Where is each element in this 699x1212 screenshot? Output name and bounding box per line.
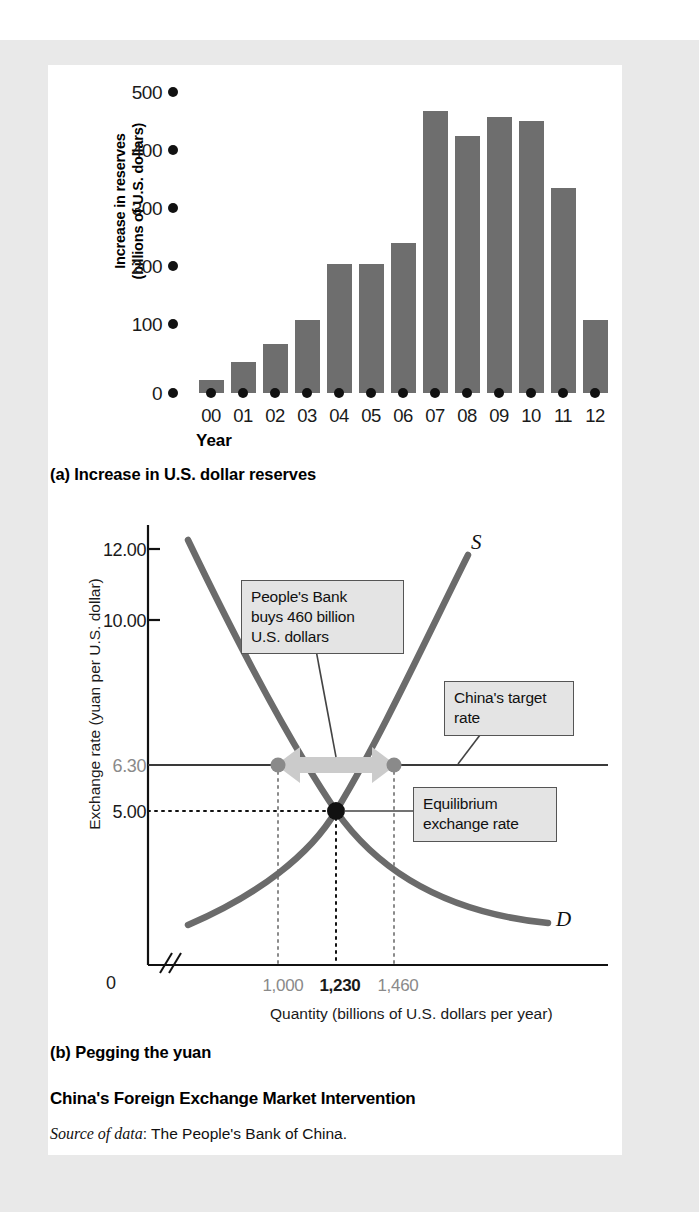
panel-a-ytick-dot-500 (168, 87, 178, 97)
page-margin-bottom (0, 1155, 699, 1212)
callout-target-rate-line1: China's target (454, 689, 546, 706)
demand-curve-label: D (556, 907, 571, 932)
bar-09 (487, 117, 512, 393)
panel-b-plot-svg (48, 495, 622, 995)
quantity-supplied-point (387, 758, 402, 773)
panel-a-xtick-01: 01 (226, 405, 260, 427)
chart-panel-b: Exchange rate (yuan per U.S. dollar) 12.… (48, 495, 622, 1075)
panel-a-xtick-00: 00 (194, 405, 228, 427)
callout-equilibrium-line2: exchange rate (423, 815, 519, 832)
callout-intervention: People's Bank buys 460 billion U.S. doll… (241, 580, 404, 654)
panel-a-plot-area (196, 87, 616, 393)
supply-curve-label: S (471, 530, 482, 555)
panel-a-ytick-dot-100 (168, 319, 178, 329)
callout-target-rate: China's target rate (444, 681, 574, 736)
bar-11 (551, 188, 576, 393)
panel-a-xtick-dot-10 (526, 388, 536, 398)
bar-05 (359, 264, 384, 393)
panel-a-xtick-dot-04 (334, 388, 344, 398)
panel-a-xtick-dot-09 (494, 388, 504, 398)
panel-a-xtick-dot-00 (206, 388, 216, 398)
callout-target-rate-line2: rate (454, 709, 480, 726)
figure-source-text: : The People's Bank of China. (143, 1125, 347, 1142)
bar-12 (583, 320, 608, 393)
callout-intervention-line2: buys 460 billion (251, 608, 355, 625)
panel-a-xtick-dot-12 (590, 388, 600, 398)
bar-07 (423, 111, 448, 393)
bar-04 (327, 264, 352, 393)
equilibrium-point (327, 802, 345, 820)
callout-intervention-line1: People's Bank (251, 588, 347, 605)
quantity-demanded-point (271, 758, 286, 773)
panel-a-xtick-dot-03 (302, 388, 312, 398)
panel-a-xtick-05: 05 (354, 405, 388, 427)
panel-a-xtick-02: 02 (258, 405, 292, 427)
bar-08 (455, 136, 480, 393)
bar-06 (391, 243, 416, 393)
panel-a-xtick-dot-01 (238, 388, 248, 398)
panel-a-xtick-dot-05 (366, 388, 376, 398)
bar-10 (519, 121, 544, 393)
page-margin-left (0, 40, 48, 1170)
chart-panel-a: Increase in reserves (billions of U.S. d… (48, 65, 622, 485)
panel-a-xtick-03: 03 (290, 405, 324, 427)
panel-a-ytick-500: 500 (82, 82, 162, 104)
bar-03 (295, 320, 320, 393)
panel-a-xtick-dot-08 (462, 388, 472, 398)
panel-a-ytick-200: 200 (82, 256, 162, 278)
figure-source: Source of data: The People's Bank of Chi… (50, 1125, 347, 1143)
page-margin-right (622, 40, 699, 1170)
intervention-arrow (276, 747, 396, 783)
panel-a-xtick-10: 10 (514, 405, 548, 427)
target-rate-leader-line (458, 735, 480, 764)
caption-a: (a) Increase in U.S. dollar reserves (50, 465, 316, 484)
page-margin-top (0, 40, 699, 65)
panel-a-ytick-400: 400 (82, 140, 162, 162)
panel-a-xtick-dot-11 (558, 388, 568, 398)
panel-a-xtick-dot-06 (398, 388, 408, 398)
panel-a-xtick-dot-02 (270, 388, 280, 398)
panel-a-x-axis-title: Year (196, 431, 232, 451)
panel-a-ytick-300: 300 (82, 198, 162, 220)
caption-b: (b) Pegging the yuan (50, 1043, 211, 1062)
panel-a-ytick-dot-400 (168, 145, 178, 155)
figure-page: Increase in reserves (billions of U.S. d… (0, 0, 699, 1212)
figure-sheet: Increase in reserves (billions of U.S. d… (48, 65, 622, 1155)
panel-a-xtick-12: 12 (578, 405, 612, 427)
panel-a-ytick-dot-200 (168, 261, 178, 271)
panel-a-ytick-dot-300 (168, 203, 178, 213)
panel-a-xtick-07: 07 (418, 405, 452, 427)
panel-a-ytick-0: 0 (82, 383, 162, 405)
callout-intervention-line3: U.S. dollars (251, 628, 329, 645)
panel-a-ytick-dot-0 (168, 388, 178, 398)
panel-a-xtick-06: 06 (386, 405, 420, 427)
panel-a-xtick-08: 08 (450, 405, 484, 427)
panel-a-xtick-09: 09 (482, 405, 516, 427)
panel-a-ytick-100: 100 (82, 314, 162, 336)
panel-a-xtick-dot-07 (430, 388, 440, 398)
figure-title: China's Foreign Exchange Market Interven… (50, 1089, 416, 1109)
figure-source-prefix: Source of data (50, 1125, 143, 1142)
panel-a-xtick-04: 04 (322, 405, 356, 427)
callout-equilibrium-line1: Equilibrium (423, 795, 497, 812)
panel-b-x-axis-title: Quantity (billions of U.S. dollars per y… (270, 1005, 553, 1023)
intervention-leader-line (316, 650, 336, 757)
bar-02 (263, 344, 288, 393)
panel-a-xtick-11: 11 (546, 405, 580, 427)
callout-equilibrium: Equilibrium exchange rate (413, 787, 557, 842)
